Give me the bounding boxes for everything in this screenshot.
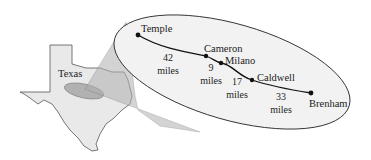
city-dot-cameron bbox=[204, 54, 208, 58]
state-label: Texas bbox=[58, 68, 82, 79]
distance-unit-4: miles bbox=[270, 104, 292, 115]
distance-value-3: 17 bbox=[232, 76, 242, 87]
distance-unit-3: miles bbox=[226, 89, 248, 100]
distance-unit-1: miles bbox=[157, 65, 179, 76]
city-dot-brenham bbox=[309, 91, 314, 96]
distance-value-1: 42 bbox=[163, 52, 173, 63]
city-label-brenham: Brenham bbox=[309, 98, 348, 109]
distance-value-4: 33 bbox=[276, 91, 286, 102]
city-dot-temple bbox=[136, 33, 141, 38]
distance-value-2: 9 bbox=[209, 62, 214, 73]
city-label-temple: Temple bbox=[141, 23, 173, 34]
city-dot-milano bbox=[219, 61, 223, 65]
city-label-caldwell: Caldwell bbox=[257, 72, 295, 83]
city-label-cameron: Cameron bbox=[204, 43, 243, 54]
city-label-milano: Milano bbox=[225, 55, 255, 66]
distance-unit-2: miles bbox=[200, 75, 222, 86]
route-diagram: Texas Temple Cameron Milano Caldwell Bre… bbox=[0, 0, 371, 160]
city-dot-caldwell bbox=[250, 78, 254, 82]
